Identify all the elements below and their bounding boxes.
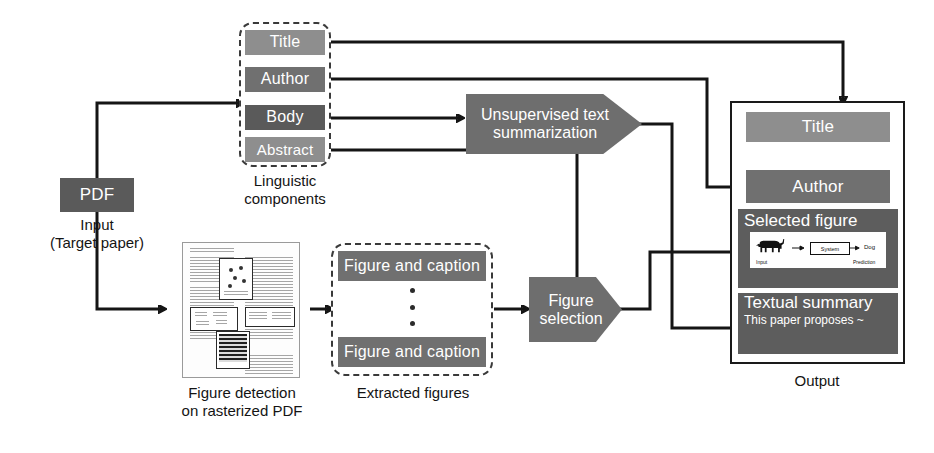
class-label: Dog [864,244,875,250]
output-row-title-label: Title [802,118,835,136]
linguistic-item-author: Author [245,67,325,92]
process-summarization: Unsupervised text summarization [466,94,642,154]
system-box: System [810,242,850,255]
detected-figure-box-3 [245,307,295,327]
output-row-author: Author [746,170,890,203]
extracted-figure-item-1-label: Figure and caption [344,258,480,275]
linguistic-item-author-label: Author [261,71,309,88]
detected-figure-box-1 [219,258,253,300]
detected-figure-box-4 [216,331,250,369]
output-row-selected-figure-label: Selected figure [738,209,898,231]
linguistic-item-abstract-label: Abstract [257,142,314,158]
output-caption: Output [752,372,882,390]
linguistic-item-body: Body [245,105,325,130]
prediction-sublabel: Prediction [853,259,875,265]
extracted-figure-item-2: Figure and caption [338,337,486,367]
rasterized-page-thumbnail [182,242,300,378]
arrow-right-icon-2 [849,245,862,251]
figure-detection-caption: Figure detection on rasterized PDF [163,384,321,419]
linguistic-item-title: Title [245,30,325,55]
process-summarization-label: Unsupervised text summarization [481,106,609,142]
detected-figure-box-2 [190,307,238,331]
extracted-figure-item-1: Figure and caption [338,251,486,281]
output-row-title: Title [746,112,890,142]
linguistic-item-body-label: Body [266,109,303,126]
output-row-selected-figure: Selected figure System Dog Input Predict… [738,209,898,288]
output-row-textual-summary: Textual summary This paper proposes ~ [738,293,898,354]
selected-figure-illustration: System Dog Input Prediction [750,232,886,268]
input-caption: Input (Target paper) [27,216,167,251]
pdf-label: PDF [80,186,115,204]
linguistic-item-title-label: Title [270,34,301,51]
arrow-right-icon-1 [792,245,806,251]
output-row-textual-summary-body: This paper proposes ~ [738,313,898,327]
output-row-textual-summary-label: Textual summary [738,293,898,313]
extracted-figures-caption: Extracted figures [336,384,490,402]
pdf-box: PDF [60,178,134,212]
dog-silhouette-icon [756,236,786,258]
system-box-label: System [821,246,839,252]
process-figure-selection-label: Figure selection [540,292,603,328]
extracted-figure-item-2-label: Figure and caption [344,344,480,361]
extracted-figures-ellipsis [409,288,415,326]
input-sublabel: Input [756,259,767,265]
output-row-author-label: Author [792,178,843,196]
process-figure-selection: Figure selection [529,277,622,342]
linguistic-item-abstract: Abstract [245,137,325,162]
diagram-canvas: PDF Input (Target paper) Title Author Bo… [0,0,934,453]
linguistic-components-caption: Linguistic components [215,172,355,207]
